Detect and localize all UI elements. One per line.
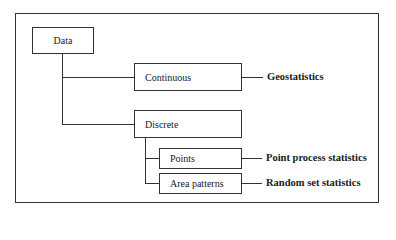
connector-discrete-trunk — [145, 138, 146, 184]
node-points-label: Points — [170, 153, 195, 164]
connector-data-continuous — [62, 77, 134, 78]
node-area-patterns: Area patterns — [159, 173, 242, 194]
connector-data-discrete — [62, 124, 134, 125]
outcome-random-set: Random set statistics — [266, 178, 361, 189]
outcome-point-process: Point process statistics — [266, 153, 367, 164]
node-discrete-label: Discrete — [145, 119, 178, 130]
node-area-patterns-label: Area patterns — [170, 178, 224, 189]
outcome-geostatistics: Geostatistics — [267, 72, 324, 83]
node-discrete: Discrete — [134, 110, 242, 138]
connector-discrete-area — [145, 183, 159, 184]
connector-discrete-points — [145, 158, 159, 159]
node-data: Data — [32, 27, 94, 54]
node-points: Points — [159, 148, 242, 169]
node-continuous: Continuous — [134, 63, 242, 91]
node-continuous-label: Continuous — [145, 72, 191, 83]
connector-continuous-geostatistics — [242, 77, 263, 78]
connector-area-outcome — [242, 183, 262, 184]
node-data-label: Data — [54, 35, 73, 46]
connector-data-trunk — [62, 54, 63, 124]
connector-points-outcome — [242, 158, 262, 159]
